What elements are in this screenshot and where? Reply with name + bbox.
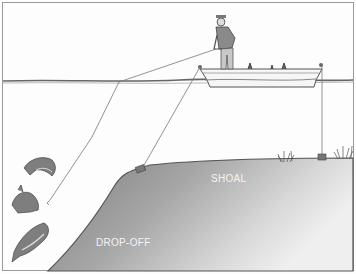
angler xyxy=(214,15,235,69)
fish-2 xyxy=(12,185,39,213)
anchor-line-front xyxy=(143,67,200,167)
fishing-diagram: SHOAL DROP-OFF xyxy=(0,0,356,274)
illustration-canvas xyxy=(0,0,356,274)
lake-bottom xyxy=(48,158,353,271)
weeds-2 xyxy=(334,146,353,159)
sinker-rear xyxy=(318,154,326,160)
fish-1 xyxy=(24,158,55,176)
fish-3 xyxy=(12,223,49,262)
shoal-label: SHOAL xyxy=(211,173,246,184)
lure xyxy=(47,200,50,205)
drop-off-label: DROP-OFF xyxy=(96,237,151,248)
boat xyxy=(198,63,323,87)
